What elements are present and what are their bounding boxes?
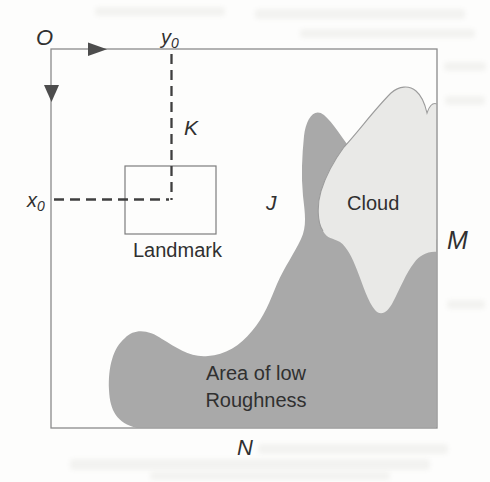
roughness-label-line2: Roughness — [176, 387, 336, 414]
map-figure: O y0 x0 K J M N Landmark Cloud Area of l… — [0, 0, 490, 482]
point-n-label: N — [237, 437, 253, 459]
roughness-label-line1: Area of low — [176, 360, 336, 387]
y-axis-label-base: y — [161, 26, 171, 48]
point-j-label: J — [266, 192, 277, 213]
x-axis-label-sub: 0 — [37, 198, 45, 214]
roughness-label: Area of low Roughness — [176, 360, 336, 414]
y-axis-arrow-icon — [88, 43, 107, 57]
x-axis-label-base: x — [27, 189, 37, 211]
y-axis-label: y0 — [161, 27, 179, 47]
point-m-label: M — [447, 228, 468, 253]
y-axis-label-sub: 0 — [171, 35, 179, 51]
origin-label: O — [36, 27, 53, 49]
x-axis-label: x0 — [27, 190, 45, 210]
x-axis-arrow-icon — [44, 85, 59, 102]
cloud-label: Cloud — [347, 193, 399, 213]
landmark-label: Landmark — [133, 240, 222, 260]
point-k-label: K — [184, 117, 198, 138]
